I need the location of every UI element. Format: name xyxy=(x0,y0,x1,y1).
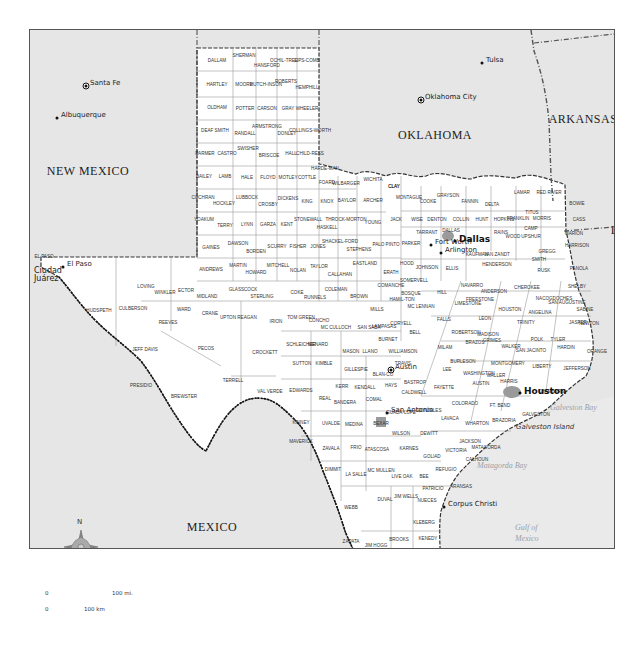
county-label: WEBB xyxy=(344,506,358,511)
county-label: STONEWALL xyxy=(294,218,322,223)
county-label: KARNES xyxy=(400,447,419,452)
capital-star-icon xyxy=(418,97,425,104)
county-label: MATAGORDA xyxy=(472,446,501,451)
city-label-santa-fe: Santa Fe xyxy=(90,80,120,87)
county-label: PANOLA xyxy=(570,267,588,272)
county-label: SABINE xyxy=(577,308,594,313)
county-label: TARRANT xyxy=(416,231,437,236)
county-label: POTTER xyxy=(236,107,255,112)
county-label: RUNNELS xyxy=(304,296,326,301)
county-label: HAYS xyxy=(385,384,397,389)
county-label: BASTROP xyxy=(404,381,426,386)
county-label: SAN JACINTO xyxy=(516,349,546,354)
county-label: MONTAGUE xyxy=(396,196,422,201)
county-label: DALLAM xyxy=(208,59,226,64)
county-label: TRINITY xyxy=(517,321,535,326)
county-label: LUBBOCK xyxy=(236,196,258,201)
county-label: DENTON xyxy=(427,218,446,223)
city-dot-icon xyxy=(430,244,433,247)
county-label: CALLAHAN xyxy=(328,273,352,278)
county-label: JASPER xyxy=(569,321,587,326)
county-label: HAMIL-TON xyxy=(389,298,414,303)
county-label: GRIMES xyxy=(483,339,501,344)
county-label: LIPS-COMB xyxy=(294,59,319,64)
county-label: JOHNSON xyxy=(416,266,438,271)
county-label: LLANO xyxy=(362,350,377,355)
county-label: LA SALLE xyxy=(346,473,367,478)
county-label: JIM WELLS xyxy=(394,495,418,500)
county-label: COCHRAN xyxy=(191,196,214,201)
city-dot-icon xyxy=(519,392,522,395)
county-label: LEE xyxy=(443,368,452,373)
city-dot-icon xyxy=(386,412,389,415)
city-label-houston: Houston xyxy=(524,387,566,396)
county-label: KENDALL xyxy=(355,386,376,391)
county-label: IRION xyxy=(270,320,283,325)
county-label: CROSBY xyxy=(258,203,277,208)
county-label: ROBERTSON xyxy=(451,331,480,336)
county-label: NAVARRO xyxy=(461,284,483,289)
county-label: WILSON xyxy=(392,432,410,437)
county-label: REFUGIO xyxy=(436,468,457,473)
county-label: ORANGE xyxy=(587,350,607,355)
county-label: ARCHER xyxy=(363,199,382,204)
county-label: OLDHAM xyxy=(207,106,227,111)
county-label: WISE xyxy=(411,218,423,223)
county-label: MENARD xyxy=(308,343,328,348)
county-label: DICKENS xyxy=(278,197,298,202)
county-label: JIM HOGG xyxy=(365,544,388,549)
scale-zero-km: 0 xyxy=(45,607,49,613)
county-label: EASTLAND xyxy=(353,262,377,267)
county-label: MORRIS xyxy=(533,217,551,222)
county-label: AUSTIN xyxy=(473,382,490,387)
county-label: MARTIN xyxy=(229,264,247,269)
county-label: REAL xyxy=(319,397,331,402)
county-label: COLORADO xyxy=(452,402,478,407)
county-label: PARMER xyxy=(195,152,214,157)
county-label: PRESIDIO xyxy=(130,384,152,389)
county-label: HUNT xyxy=(476,218,489,223)
county-label: LYNN xyxy=(241,223,253,228)
county-label: FT. BEND xyxy=(490,404,510,409)
city-dot-icon xyxy=(56,117,59,120)
county-label: JONES xyxy=(310,245,325,250)
county-label: WARD xyxy=(177,308,191,313)
county-label: UPSHUR xyxy=(521,235,540,240)
county-label: HENDERSON xyxy=(482,263,511,268)
compass-north-label: N xyxy=(77,519,82,526)
city-dot-icon xyxy=(443,506,446,509)
county-label: KENT xyxy=(281,223,293,228)
county-label: NOLAN xyxy=(290,269,306,274)
county-label: MILLS xyxy=(370,308,383,313)
county-label: ZAPATA xyxy=(343,540,360,545)
capital-star-icon xyxy=(83,83,90,90)
county-label: MITCHELL xyxy=(267,264,290,269)
county-label: FRIO xyxy=(351,446,362,451)
county-label: FAYETTE xyxy=(434,386,454,391)
county-label: WILBARGER xyxy=(332,182,360,187)
county-label: HOUSTON xyxy=(499,308,522,313)
county-label: CULBERSON xyxy=(119,307,148,312)
county-label: COTTLE xyxy=(298,176,316,181)
county-label: REAGAN xyxy=(237,316,256,321)
county-label: SHELBY xyxy=(568,285,586,290)
county-label: SAN AUGUSTINE xyxy=(548,301,585,306)
county-label: FREESTONE xyxy=(466,298,494,303)
county-label: EL PASO xyxy=(34,255,53,260)
county-label: TERRY xyxy=(217,224,233,229)
region-label-louisiana: LA. xyxy=(611,224,615,236)
county-label: JACK xyxy=(390,218,402,223)
county-label: KNOX xyxy=(320,200,333,205)
capital-star-icon xyxy=(388,367,395,374)
county-label: CALDWELL xyxy=(402,391,427,396)
city-label-ciudad-ju-rez: Ciudad Juárez xyxy=(34,267,68,283)
county-label: KLEBERG xyxy=(413,521,435,526)
county-label: RUSK xyxy=(538,269,551,274)
county-label: BEE xyxy=(419,475,428,480)
county-label: CAMP xyxy=(524,227,537,232)
county-label: RED RIVER xyxy=(536,191,561,196)
county-label: MC MULLEN xyxy=(367,469,394,474)
county-label: JEFFERSON xyxy=(563,367,590,372)
county-label: BRISCOE xyxy=(259,154,280,159)
county-label: BURLESON xyxy=(450,360,475,365)
